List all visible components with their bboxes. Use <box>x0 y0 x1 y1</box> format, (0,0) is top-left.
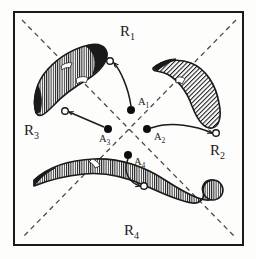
open-circle-r4 <box>141 183 148 190</box>
figure-root: A1 A2 A3 A4 R1 R2 R3 R4 <box>0 0 256 259</box>
point-a1 <box>127 106 135 114</box>
figure-canvas: A1 A2 A3 A4 R1 R2 R3 R4 <box>0 0 256 259</box>
point-a3 <box>104 125 112 133</box>
blob-r4-bulb <box>203 180 223 200</box>
point-a4 <box>124 151 132 159</box>
point-a2 <box>143 125 151 133</box>
open-circle-r1 <box>107 58 114 65</box>
open-circle-r3 <box>62 108 69 115</box>
open-circle-r2 <box>213 130 220 137</box>
